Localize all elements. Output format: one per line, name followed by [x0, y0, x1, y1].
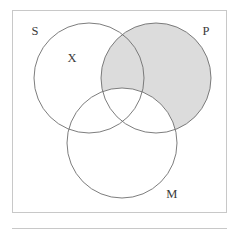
circle-label-s: S: [31, 24, 38, 38]
region-mark-x: X: [67, 51, 76, 65]
circle-label-m: M: [166, 187, 177, 201]
region-marks-group: X: [67, 51, 76, 65]
circle-label-p: P: [202, 24, 209, 38]
venn-diagram-figure: S P M X: [0, 0, 244, 235]
venn-diagram-canvas: S P M X: [0, 0, 244, 235]
